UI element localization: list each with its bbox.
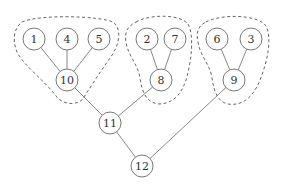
tree-nodes: 145102786391112 (23, 28, 262, 177)
node-label: 1 (31, 33, 38, 46)
edge-5-10 (74, 48, 92, 72)
node-label: 11 (103, 117, 117, 130)
edge-10-11 (75, 88, 102, 115)
node-4: 4 (56, 28, 78, 50)
diagram-svg: 145102786391112 (0, 0, 281, 187)
node-5: 5 (88, 28, 110, 50)
edge-9-12 (150, 88, 226, 159)
node-7: 7 (164, 28, 186, 50)
node-9: 9 (223, 69, 245, 91)
node-label: 9 (231, 74, 238, 87)
edge-7-8 (165, 49, 172, 69)
node-12: 12 (131, 155, 153, 177)
edge-8-11 (118, 87, 152, 116)
node-6: 6 (206, 28, 228, 50)
node-label: 6 (214, 33, 221, 46)
node-label: 12 (135, 160, 149, 173)
node-10: 10 (56, 69, 78, 91)
edge-2-8 (151, 49, 158, 69)
node-label: 3 (248, 33, 255, 46)
node-11: 11 (99, 112, 121, 134)
node-label: 7 (172, 33, 179, 46)
edge-3-9 (238, 49, 247, 70)
node-label: 2 (144, 33, 151, 46)
node-2: 2 (136, 28, 158, 50)
node-label: 5 (96, 33, 103, 46)
node-3: 3 (240, 28, 262, 50)
node-label: 10 (60, 74, 74, 87)
node-1: 1 (23, 28, 45, 50)
node-label: 4 (64, 33, 71, 46)
edge-11-12 (117, 132, 136, 157)
edge-6-9 (221, 49, 230, 70)
node-8: 8 (150, 69, 172, 91)
edge-1-10 (41, 48, 60, 72)
node-label: 8 (158, 74, 165, 87)
tree-edges (41, 48, 247, 159)
tree-diagram: 145102786391112 (0, 0, 281, 187)
